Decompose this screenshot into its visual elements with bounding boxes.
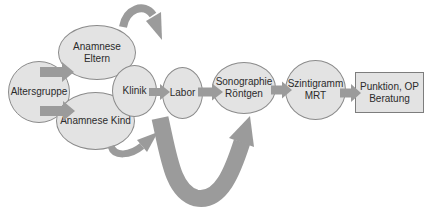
curved-arrow-anamnese-kind-exit-head xyxy=(137,132,158,152)
flowchart-diagram: Altersgruppe Anamnese Eltern Anamnese Ki… xyxy=(0,0,429,212)
node-punktion-op-beratung: Punktion, OP Beratung xyxy=(355,72,424,113)
node-labor: Labor xyxy=(162,67,203,119)
node-szintigramm-mrt: Szintigramm MRT xyxy=(285,60,346,120)
curved-arrow-anamnese-kind-exit xyxy=(111,146,142,154)
u-curve-bypass-arrow-head xyxy=(229,116,254,147)
node-klinik: Klinik xyxy=(112,65,157,117)
node-sonographie-roentgen: Sonographie Röntgen xyxy=(212,62,276,114)
curved-arrow-anamnese-eltern-exit-head xyxy=(146,12,162,40)
u-curve-bypass-arrow xyxy=(160,118,242,199)
curved-arrow-anamnese-eltern-exit xyxy=(123,8,153,27)
